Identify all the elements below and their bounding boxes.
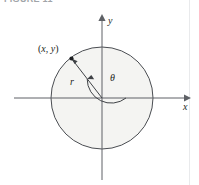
point-marker (69, 56, 73, 60)
x-axis-label: x (182, 101, 188, 112)
figure-container: FIGURE 11 (x, y) r θ x y (0, 0, 199, 185)
radius-label: r (70, 76, 74, 87)
angle-label: θ (110, 72, 115, 83)
y-axis-label: y (107, 15, 113, 26)
point-coordinate-label: (x, y) (38, 43, 59, 55)
y-axis-arrowhead (98, 14, 105, 21)
point-label-close: ) (55, 43, 58, 55)
polar-coordinate-diagram: (x, y) r θ x y (0, 0, 199, 185)
